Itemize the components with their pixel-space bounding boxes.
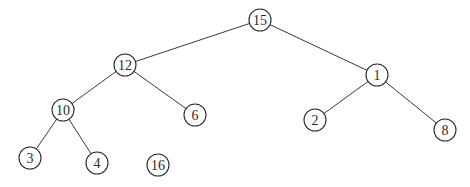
tree-node-15: 15 — [249, 9, 271, 31]
tree-node-8: 8 — [434, 119, 456, 141]
node-label: 15 — [253, 13, 267, 28]
node-label: 12 — [118, 58, 132, 73]
tree-node-2: 2 — [304, 109, 326, 131]
tree-node-3: 3 — [19, 147, 41, 169]
edges-layer — [36, 23, 436, 153]
tree-node-1: 1 — [366, 64, 388, 86]
edge-10-to-3 — [36, 119, 57, 149]
edge-1-to-2 — [324, 81, 368, 113]
tree-diagram: 15121106283416 — [0, 0, 470, 187]
edge-12-to-6 — [134, 71, 186, 108]
node-label: 3 — [27, 151, 34, 166]
tree-node-16: 16 — [147, 154, 169, 176]
node-label: 10 — [56, 103, 70, 118]
edge-10-to-4 — [69, 119, 91, 153]
edge-12-to-10 — [72, 71, 116, 103]
tree-node-10: 10 — [52, 99, 74, 121]
tree-node-4: 4 — [86, 152, 108, 174]
node-label: 2 — [312, 113, 319, 128]
node-label: 16 — [151, 158, 165, 173]
tree-node-12: 12 — [114, 54, 136, 76]
node-label: 6 — [192, 108, 199, 123]
edge-15-to-1 — [270, 25, 367, 71]
tree-node-6: 6 — [184, 104, 206, 126]
edge-1-to-8 — [386, 82, 437, 123]
node-label: 8 — [442, 123, 449, 138]
node-label: 1 — [374, 68, 381, 83]
edge-15-to-12 — [135, 23, 249, 61]
nodes-layer: 15121106283416 — [19, 9, 456, 176]
node-label: 4 — [94, 156, 101, 171]
